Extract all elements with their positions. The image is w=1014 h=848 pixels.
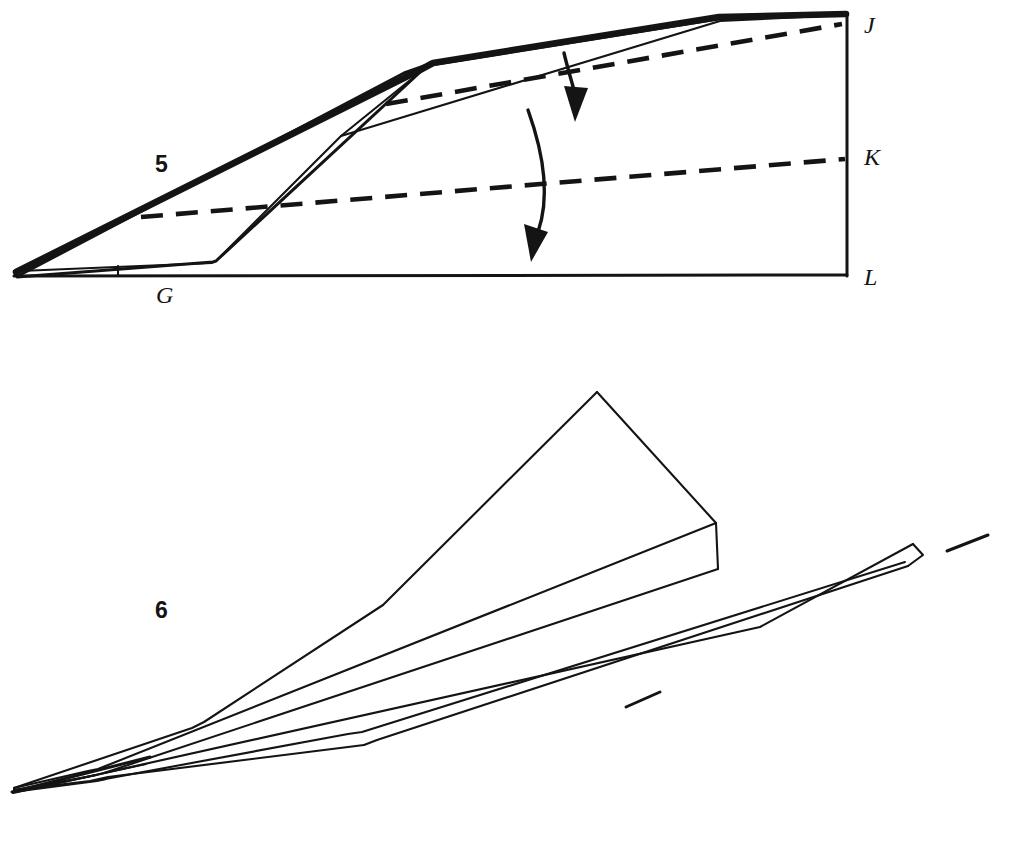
figure-6-drawing: 6 — [0, 340, 1014, 848]
label-k: K — [863, 144, 882, 170]
label-j: J — [864, 12, 876, 38]
far-wing-band-lower-edge — [16, 569, 718, 792]
step-number-6: 6 — [155, 597, 168, 623]
figure-5-container: 5 G J K L — [0, 0, 1014, 330]
upper-fold-arrow — [564, 53, 588, 122]
near-wing-tip-bevel — [908, 544, 923, 566]
upper-motion-dash — [626, 692, 660, 707]
lower-fold-arrow-head — [524, 224, 548, 262]
lower-motion-dash — [947, 535, 988, 551]
diagram-page: 5 G J K L — [0, 0, 1014, 848]
far-wing-ridge-fold — [14, 523, 716, 788]
nose-tip-cluster-b — [13, 764, 146, 793]
lower-dashed-fold-line — [141, 159, 845, 217]
step-number-5: 5 — [155, 151, 168, 177]
top-folded-spine-heavy — [16, 14, 846, 272]
far-wing-tip-bevel — [597, 392, 716, 523]
far-wing-back-step — [716, 523, 718, 569]
top-folded-spine-secondary — [18, 19, 718, 276]
upper-fold-arrow-head — [564, 86, 588, 122]
label-l: L — [863, 264, 877, 290]
label-g: G — [156, 282, 173, 308]
base-edge-line — [14, 275, 847, 276]
figure-6-container: 6 — [0, 340, 1014, 848]
near-wing-trailing-edge — [364, 566, 908, 745]
near-wing-leading-edge — [104, 544, 913, 773]
fuselage-keel-lower — [14, 745, 364, 790]
lower-fold-arrow-shaft — [528, 110, 544, 232]
figure-5-drawing: 5 G J K L — [0, 0, 1014, 330]
